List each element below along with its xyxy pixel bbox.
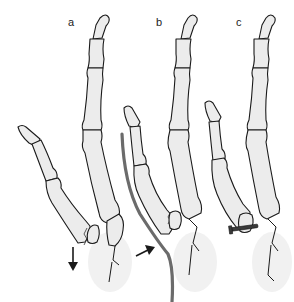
middle-phalanx xyxy=(253,39,269,68)
proximal-phalanx-fractured xyxy=(46,178,90,243)
down-arrow-icon xyxy=(68,247,78,271)
illustration-canvas xyxy=(0,0,294,302)
proximal-phalanx xyxy=(247,68,268,130)
shadow-b xyxy=(173,232,217,292)
base-fragment xyxy=(169,211,181,230)
middle-phalanx xyxy=(32,140,57,181)
fixed-finger-c xyxy=(205,101,253,233)
distal-phalanx xyxy=(259,15,275,39)
middle-phalanx xyxy=(175,39,191,68)
fracture-illustration: a b c xyxy=(0,0,294,302)
middle-phalanx xyxy=(209,121,225,161)
distal-phalanx xyxy=(124,106,140,128)
distal-phalanx xyxy=(181,15,197,39)
proximal-phalanx xyxy=(169,68,190,130)
metacarpal xyxy=(168,130,202,219)
proximal-phalanx xyxy=(82,68,103,130)
distal-phalanx xyxy=(93,15,109,39)
metacarpal xyxy=(246,130,280,219)
push-arrow-icon xyxy=(136,245,155,256)
middle-phalanx xyxy=(130,126,146,166)
middle-phalanx xyxy=(88,39,104,68)
metacarpal xyxy=(82,130,119,223)
distal-phalanx xyxy=(205,101,221,123)
